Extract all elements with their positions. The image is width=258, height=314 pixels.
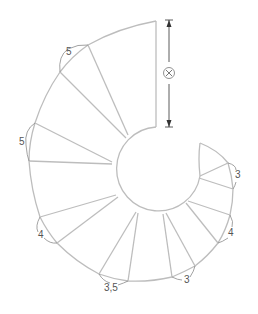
label-top-left: 5 xyxy=(66,46,72,57)
label-bottom: 3,5 xyxy=(104,282,118,293)
height-dimension xyxy=(164,20,175,127)
label-lower-left: 4 xyxy=(38,229,44,240)
inner-core-arc xyxy=(117,127,200,211)
label-left: 5 xyxy=(19,136,25,147)
width-brackets xyxy=(26,45,236,285)
outer-spiral xyxy=(29,21,233,281)
label-upper-right: 3 xyxy=(235,169,241,180)
diagram-svg: 5 5 4 3,5 3 4 3 xyxy=(0,0,258,314)
label-bottom-right: 3 xyxy=(184,274,190,285)
label-right: 4 xyxy=(228,227,234,238)
spiral-staircase-diagram: 5 5 4 3,5 3 4 3 xyxy=(0,0,258,314)
